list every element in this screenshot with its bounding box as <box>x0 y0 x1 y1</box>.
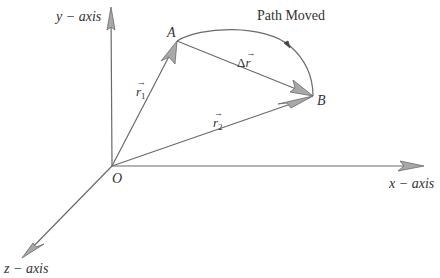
x-axis <box>112 161 424 171</box>
r2-label: →r2 <box>213 116 223 132</box>
vector-arrow-icon: → <box>137 78 146 87</box>
delta-r-label: Δ→r <box>237 56 250 69</box>
displacement-diagram <box>0 0 440 278</box>
path-moved-label: Path Moved <box>257 9 325 23</box>
z-axis <box>22 166 112 258</box>
vector-arrow-icon: → <box>246 49 255 58</box>
vector-arrow-icon: → <box>214 109 223 118</box>
r1-arrowhead-icon <box>161 41 177 64</box>
x-axis-label: x − axis <box>389 177 434 191</box>
y-axis-label: y − axis <box>56 10 101 24</box>
z-axis-arrowhead-icon <box>22 243 44 258</box>
origin-label: O <box>112 172 122 186</box>
y-axis-arrowhead-icon <box>107 7 115 30</box>
z-axis-label: z − axis <box>4 262 48 276</box>
point-b-label: B <box>317 94 326 108</box>
point-a-label: A <box>167 26 176 40</box>
r1-label: →r1 <box>136 85 146 101</box>
y-axis <box>107 7 115 166</box>
